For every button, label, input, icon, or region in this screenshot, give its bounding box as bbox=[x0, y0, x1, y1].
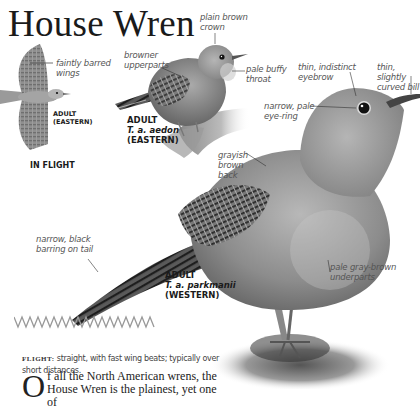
label-pale-gray-brown-underparts: pale gray-brown underparts bbox=[330, 262, 396, 282]
label-thin-indistinct-eyebrow: thin, indistinct eyebrow bbox=[298, 62, 356, 82]
label-browner-upperparts: browner upperparts bbox=[124, 50, 169, 70]
label-narrow-pale-eye-ring: narrow, pale eye-ring bbox=[264, 101, 314, 121]
species-body-text: Of all the North American wrens, the Hou… bbox=[22, 370, 222, 409]
caption-western-adult: ADULT T. a. parkmanii (WESTERN) bbox=[165, 270, 236, 300]
label-narrow-black-tail-barring: narrow, black barring on tail bbox=[36, 234, 93, 254]
in-flight-heading: IN FLIGHT bbox=[30, 161, 75, 171]
label-faintly-barred-wings: faintly barred wings bbox=[56, 58, 111, 78]
label-plain-brown-crown: plain brown crown bbox=[200, 12, 248, 32]
body-paragraph: f all the North American wrens, the Hous… bbox=[47, 369, 217, 409]
caption-flight-adult: ADULT (EASTERN) bbox=[53, 110, 92, 126]
caption-eastern-adult: ADULT T. a. aedon (EASTERN) bbox=[127, 115, 179, 145]
label-grayish-brown-back: grayish brown back bbox=[218, 150, 248, 180]
drop-cap: O bbox=[22, 373, 45, 399]
label-thin-curved-bill: thin, slightly curved bill bbox=[377, 62, 420, 92]
flight-pattern-zigzag-icon bbox=[14, 315, 156, 329]
flight-label: FLIGHT: bbox=[22, 355, 55, 363]
label-pale-buffy-throat: pale buffy throat bbox=[246, 64, 287, 84]
